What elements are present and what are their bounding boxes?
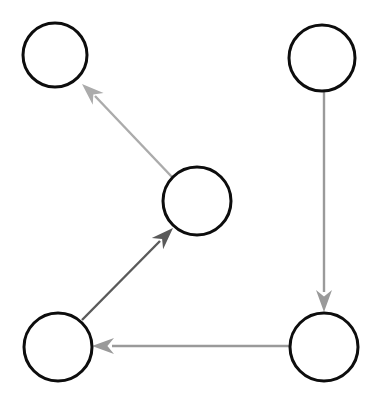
graph-diagram (0, 0, 377, 407)
edge-bottom-left-to-center-line (82, 241, 160, 320)
edge-bottom-right-to-bottom-left (92, 338, 292, 354)
node-center[interactable] (163, 167, 231, 235)
edge-bottom-right-to-bottom-left-arrowhead-icon (92, 338, 114, 354)
edge-center-to-top-left-line (95, 96, 172, 177)
edge-top-right-to-bottom-right (316, 92, 332, 312)
nodes-layer (23, 23, 358, 381)
edge-bottom-left-to-center (82, 228, 173, 320)
edge-center-to-top-left (82, 84, 172, 177)
node-bottom-left[interactable] (24, 313, 92, 381)
node-top-right[interactable] (289, 25, 355, 91)
node-bottom-right[interactable] (290, 313, 358, 381)
graph-canvas (0, 0, 377, 407)
edge-top-right-to-bottom-right-arrowhead-icon (316, 290, 332, 312)
node-top-left[interactable] (23, 23, 87, 87)
